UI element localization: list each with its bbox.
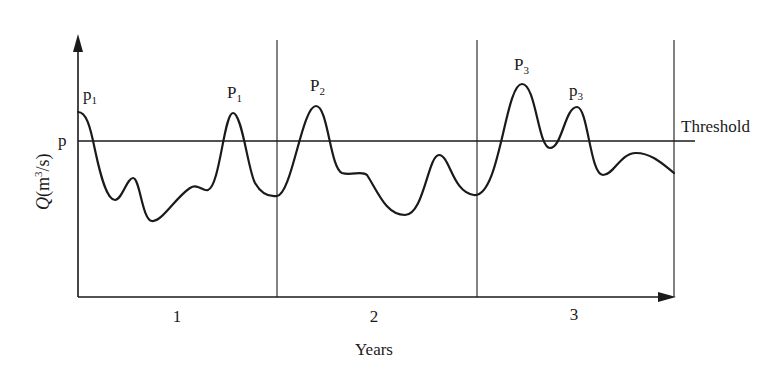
peak-label-P1: P1 [227, 83, 242, 104]
y-axis-label-unit-post: /s) [33, 153, 54, 171]
discharge-curve [78, 84, 674, 221]
svg-text:Q(m3/s): Q(m3/s) [32, 153, 54, 210]
peak-label-p3-small: p3 [569, 81, 584, 102]
year-label-1: 1 [173, 307, 182, 326]
threshold-label: Threshold [681, 117, 750, 136]
x-axis-label: Years [355, 340, 393, 359]
year-label-3: 3 [570, 305, 579, 324]
y-axis-arrow-icon [73, 34, 83, 52]
y-axis-label: Q(m3/s) [32, 153, 54, 210]
peak-label-P2: P2 [310, 76, 325, 97]
year-label-2: 2 [370, 307, 379, 326]
y-axis-label-unit: (m [33, 177, 54, 197]
peak-label-p1-small: p1 [83, 85, 97, 106]
peak-label-P3: P3 [514, 55, 529, 76]
y-axis-label-var: Q [33, 197, 53, 210]
threshold-hydrograph-diagram: p Q(m3/s) Threshold p1 P1 P2 P3 p3 1 2 3… [0, 0, 782, 369]
threshold-tick-label: p [58, 131, 67, 150]
x-axis-arrow-icon [658, 292, 676, 302]
